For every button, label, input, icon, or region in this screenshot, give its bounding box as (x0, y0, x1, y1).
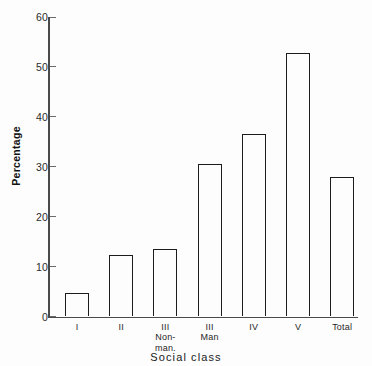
x-axis-line (48, 317, 358, 318)
x-axis-tick-label-line: III (206, 322, 214, 332)
x-axis-tick-label-line: II (118, 322, 123, 332)
bar (330, 177, 354, 316)
y-axis-tick-mark (50, 166, 56, 167)
y-axis-tick-label: 10 (4, 262, 48, 273)
x-axis-tick-label-line: I (76, 322, 79, 332)
y-axis-tick-mark (50, 66, 56, 67)
bar (198, 164, 222, 317)
y-axis-tick-mark (50, 266, 56, 267)
y-axis-tick-mark (50, 316, 56, 317)
y-axis-title: Percentage (10, 116, 22, 196)
bar (109, 255, 133, 316)
y-axis-tick-label: 50 (4, 62, 48, 73)
y-axis-tick-mark (50, 116, 56, 117)
bar (65, 293, 89, 316)
x-axis-tick-label: Total (312, 322, 372, 333)
x-axis-tick-label-line: V (295, 322, 301, 332)
y-axis-tick-label: 20 (4, 212, 48, 223)
y-axis-tick-label: 60 (4, 12, 48, 23)
bar-chart: 0102030405060 IIIIIINon-man.IIIManIVVTot… (0, 0, 372, 366)
bar (242, 134, 266, 317)
x-axis-title: Social class (0, 351, 372, 363)
bar (286, 53, 310, 317)
y-axis-tick-mark (50, 17, 56, 18)
y-axis-tick-label: 0 (4, 312, 48, 323)
y-axis-tick-mark (50, 216, 56, 217)
bar (153, 249, 177, 317)
x-axis-tick-label-line: III (161, 322, 169, 332)
x-axis-tick-label-line: IV (249, 322, 258, 332)
x-axis-tick-label-line: Man (180, 332, 240, 343)
x-axis-tick-label-line: Total (332, 322, 352, 332)
